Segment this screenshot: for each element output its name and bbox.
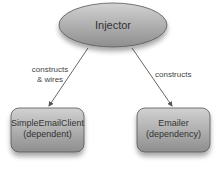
- edge-label-constructs-and-wires: constructs & wires: [30, 65, 70, 85]
- edge-label-line2: & wires: [30, 75, 70, 85]
- edge-label-constructs: constructs: [155, 70, 191, 80]
- simple-email-client-label: SimpleEmailClient (dependent): [9, 118, 86, 140]
- simple-email-client-role: (dependent): [9, 129, 86, 140]
- emailer-label: Emailer (dependency): [135, 118, 212, 140]
- edge-label-line1: constructs: [30, 65, 70, 75]
- emailer-role: (dependency): [135, 129, 212, 140]
- emailer-name: Emailer: [135, 118, 212, 129]
- injector-label: Injector: [59, 19, 167, 31]
- simple-email-client-name: SimpleEmailClient: [9, 118, 86, 129]
